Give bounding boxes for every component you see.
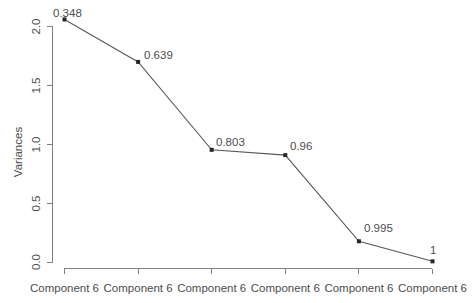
y-tick-label-3: 1.5	[30, 78, 42, 94]
point-label-0: 0.348	[53, 7, 82, 19]
point-label-5: 1	[430, 244, 436, 256]
data-point-marker-4	[357, 239, 361, 243]
y-tick-label-0: 0.0	[30, 254, 42, 270]
data-point-marker-1	[136, 60, 140, 64]
y-axis-title: Variances	[12, 127, 24, 178]
y-axis-tick-labels: 0.0 0.5 1.0 1.5 2.0	[30, 19, 42, 271]
point-label-4: 0.995	[364, 222, 393, 234]
x-tick-label-5: Component 6	[398, 282, 467, 294]
x-tick-label-3: Component 6	[251, 282, 320, 294]
x-axis-ticks	[65, 269, 433, 275]
plot-canvas: 0.0 0.5 1.0 1.5 2.0 Variances Component …	[0, 0, 474, 303]
data-point-marker-3	[283, 153, 287, 157]
point-label-2: 0.803	[216, 136, 245, 148]
data-point-marker-5	[431, 259, 435, 263]
x-axis-tick-labels: Component 6 Component 6 Component 6 Comp…	[30, 282, 467, 294]
y-axis-ticks	[47, 27, 53, 263]
data-point-marker-2	[210, 148, 214, 152]
y-tick-label-4: 2.0	[30, 19, 42, 35]
y-tick-label-2: 1.0	[30, 137, 42, 153]
y-tick-label-1: 0.5	[30, 196, 42, 212]
point-label-1: 0.639	[144, 49, 173, 61]
data-point-labels: 0.348 0.639 0.803 0.96 0.995 1	[53, 7, 436, 256]
x-tick-label-2: Component 6	[177, 282, 246, 294]
point-label-3: 0.96	[290, 140, 312, 152]
x-tick-label-4: Component 6	[324, 282, 393, 294]
x-tick-label-0: Component 6	[30, 282, 99, 294]
scree-plot-chart: 0.0 0.5 1.0 1.5 2.0 Variances Component …	[0, 0, 474, 303]
x-tick-label-1: Component 6	[104, 282, 173, 294]
